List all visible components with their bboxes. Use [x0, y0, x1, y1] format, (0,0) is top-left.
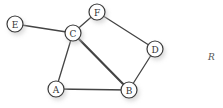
node-label: C	[70, 29, 77, 39]
node-label: B	[126, 86, 133, 96]
node-e: E	[7, 16, 26, 36]
node-f: F	[89, 4, 108, 24]
nodes-layer: ECFDAB	[7, 4, 166, 102]
node-label: D	[151, 45, 158, 55]
graph-svg: ECFDAB	[0, 0, 223, 108]
node-label: A	[52, 85, 60, 95]
node-a: A	[48, 81, 67, 101]
edge-a-b	[56, 89, 129, 90]
edges-layer	[15, 12, 155, 90]
node-label: E	[12, 20, 19, 30]
node-b: B	[121, 82, 140, 102]
graph-diagram: ECFDAB R	[0, 0, 223, 108]
node-c: C	[65, 25, 84, 45]
node-label: F	[94, 8, 100, 18]
side-label-r: R	[208, 52, 215, 62]
